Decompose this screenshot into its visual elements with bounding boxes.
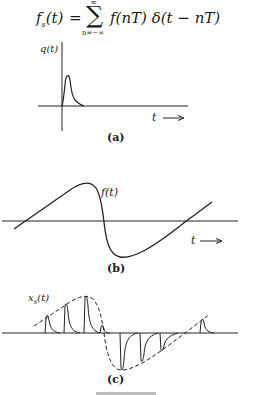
panel-a-pulse-curve: [62, 76, 84, 106]
panel-c-sample-pulse: [84, 296, 100, 333]
panel-a-axis-label: t: [152, 111, 156, 124]
panel-c-sample-pulse: [100, 325, 110, 333]
panel-c-caption: (c): [107, 373, 124, 386]
panel-a-plot: [38, 42, 188, 131]
panel-c-sample-pulse: [140, 333, 158, 361]
figure-drawings: [0, 0, 262, 395]
panel-c-sample-pulse: [200, 319, 214, 333]
panel-b-caption: (b): [107, 262, 125, 275]
panel-c-sample-pulse: [45, 315, 60, 333]
panel-c-sample-pulse: [160, 333, 178, 351]
panel-a-caption: (a): [107, 131, 125, 144]
panel-a-signal-label: q(t): [40, 43, 58, 54]
panel-c-sample-pulse: [120, 333, 138, 370]
panel-b-axis-label: t: [191, 234, 195, 247]
panel-b-signal-label: f(t): [101, 186, 118, 199]
panel-c-signal-label: xs(t): [28, 292, 49, 306]
panel-b-plot: [2, 183, 238, 257]
panel-c-sample-pulse: [64, 304, 80, 333]
panel-c-plot: [2, 296, 238, 370]
